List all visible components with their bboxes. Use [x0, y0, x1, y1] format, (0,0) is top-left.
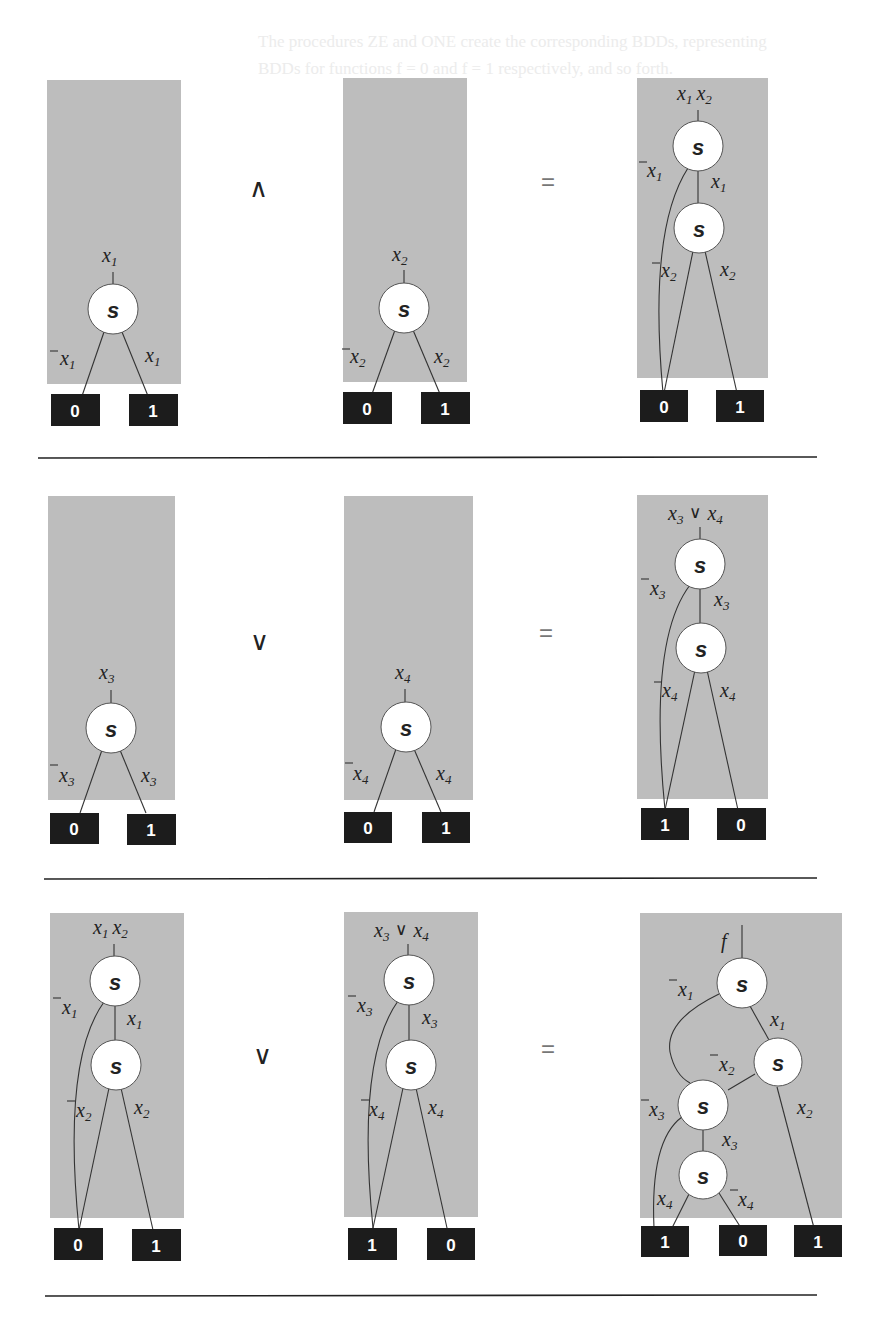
svg-text:s: s [772, 1051, 784, 1076]
bdd-x4: x4 s x4 x4 0 1 [344, 496, 473, 843]
svg-text:1: 1 [660, 816, 669, 835]
svg-text:1: 1 [148, 402, 157, 421]
svg-text:1: 1 [146, 821, 155, 840]
svg-text:0: 0 [362, 400, 371, 419]
row-3-or: x1x2 s s x1 x1 x2 x2 0 1 ∨ x3∨x4 [45, 912, 842, 1296]
bdd-x3-or-x4: x3∨x4 s s x3 x3 x4 x4 1 0 [344, 912, 478, 1260]
and-operator: ∧ [249, 173, 268, 203]
svg-text:s: s [110, 1054, 122, 1079]
svg-text:s: s [695, 637, 707, 662]
svg-text:s: s [398, 297, 410, 322]
equals-sign: = [541, 1035, 555, 1062]
bdd-operation-diagram: x1 s x1 x1 0 1 ∧ x2 s x2 x2 [0, 0, 886, 1338]
bdd-x3-or-x4: x3∨x4 s s x3 x3 x4 x4 1 0 [637, 495, 768, 840]
svg-text:0: 0 [736, 816, 745, 835]
svg-text:s: s [405, 1054, 417, 1079]
equals-sign: = [541, 168, 555, 195]
svg-text:s: s [694, 553, 706, 578]
svg-text:s: s [403, 969, 415, 994]
svg-text:0: 0 [363, 819, 372, 838]
svg-text:1: 1 [441, 819, 450, 838]
svg-text:s: s [693, 217, 705, 242]
svg-text:s: s [692, 135, 704, 160]
bdd-x1-and-x2: x1x2 s s x1 x1 x2 x2 0 1 [637, 78, 768, 422]
svg-text:0: 0 [659, 398, 668, 417]
svg-text:0: 0 [738, 1232, 747, 1251]
row-separator [38, 457, 817, 458]
svg-text:1: 1 [813, 1233, 822, 1252]
svg-text:0: 0 [73, 1236, 82, 1255]
svg-text:s: s [697, 1094, 709, 1119]
panel-background [48, 496, 175, 800]
row-2-or: x3 s x3 x3 0 1 ∨ x4 s x4 x4 [44, 495, 817, 879]
svg-text:0: 0 [69, 820, 78, 839]
panel-background [343, 78, 467, 382]
svg-text:1: 1 [440, 400, 449, 419]
or-operator: ∨ [250, 626, 269, 656]
svg-text:s: s [107, 298, 119, 323]
svg-text:s: s [736, 972, 748, 997]
svg-text:0: 0 [70, 402, 79, 421]
svg-text:1: 1 [367, 1236, 376, 1255]
panel-background [47, 80, 181, 384]
equals-sign: = [539, 619, 553, 646]
svg-text:0: 0 [446, 1236, 455, 1255]
svg-text:s: s [400, 716, 412, 741]
or-operator: ∨ [253, 1040, 272, 1070]
panel-background [344, 496, 473, 800]
row-separator [45, 1295, 817, 1296]
row-1-and: x1 s x1 x1 0 1 ∧ x2 s x2 x2 [38, 78, 817, 458]
svg-text:s: s [105, 717, 117, 742]
bdd-x1-and-x2: x1x2 s s x1 x1 x2 x2 0 1 [50, 913, 184, 1261]
bdd-result-f: f s s s s x1 x1 x2 x2 x3 [640, 913, 842, 1257]
svg-text:s: s [697, 1164, 709, 1189]
bdd-x2: x2 s x2 x2 0 1 [342, 78, 470, 424]
row-separator [44, 878, 817, 879]
svg-text:1: 1 [151, 1237, 160, 1256]
bdd-x1: x1 s x1 x1 0 1 [47, 80, 181, 426]
svg-text:1: 1 [660, 1233, 669, 1252]
svg-text:s: s [109, 970, 121, 995]
svg-text:1: 1 [735, 398, 744, 417]
bdd-x3: x3 s x3 x3 0 1 [48, 496, 176, 845]
